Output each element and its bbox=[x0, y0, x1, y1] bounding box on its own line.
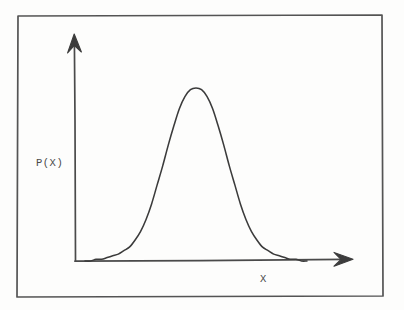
y-axis bbox=[68, 34, 82, 261]
distribution-curve-group bbox=[85, 88, 307, 261]
distribution-sketch-svg bbox=[0, 0, 404, 310]
outer-border-frame bbox=[17, 15, 383, 297]
bell-curve-path bbox=[85, 88, 307, 261]
y-axis-line bbox=[74, 42, 75, 261]
x-axis-label: X bbox=[260, 273, 267, 285]
y-axis-label: P(X) bbox=[36, 157, 63, 169]
border-rectangle-path bbox=[17, 15, 383, 297]
figure-canvas: P(X) X bbox=[0, 0, 404, 310]
